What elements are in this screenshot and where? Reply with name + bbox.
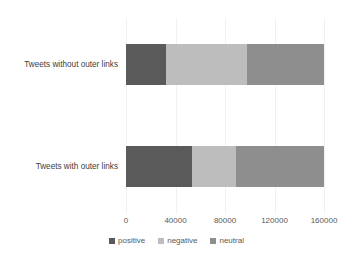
table-row[interactable] bbox=[126, 44, 324, 85]
table-row[interactable] bbox=[126, 146, 324, 187]
x-tick-label-160000: 160000 bbox=[311, 216, 338, 225]
bar-segment-negative[interactable] bbox=[166, 44, 248, 85]
legend-label: negative bbox=[167, 236, 197, 245]
category-label-tweets-with-outer-links: Tweets with outer links bbox=[0, 162, 122, 171]
bar-segment-neutral[interactable] bbox=[247, 44, 324, 85]
legend-label: positive bbox=[118, 236, 145, 245]
legend-swatch-icon bbox=[109, 238, 115, 244]
x-tick-label-120000: 120000 bbox=[261, 216, 288, 225]
gridline-160000 bbox=[324, 18, 325, 214]
category-label-tweets-without-outer-links: Tweets without outer links bbox=[0, 60, 122, 69]
legend-item-neutral[interactable]: neutral bbox=[210, 236, 243, 245]
x-tick-label-0: 0 bbox=[124, 216, 128, 225]
x-axis-tick-labels: 04000080000120000160000 bbox=[126, 216, 324, 230]
legend-item-positive[interactable]: positive bbox=[109, 236, 145, 245]
legend-label: neutral bbox=[219, 236, 243, 245]
bar-segment-neutral[interactable] bbox=[236, 146, 324, 187]
legend: positivenegativeneutral bbox=[0, 236, 353, 245]
bar-segment-positive[interactable] bbox=[126, 146, 192, 187]
legend-swatch-icon bbox=[158, 238, 164, 244]
plot-area bbox=[126, 18, 324, 214]
stacked-bar-chart: Tweets without outer links Tweets with o… bbox=[0, 0, 353, 266]
bar-segment-positive[interactable] bbox=[126, 44, 166, 85]
legend-swatch-icon bbox=[210, 238, 216, 244]
x-tick-label-80000: 80000 bbox=[214, 216, 236, 225]
legend-item-negative[interactable]: negative bbox=[158, 236, 197, 245]
x-tick-label-40000: 40000 bbox=[164, 216, 186, 225]
bar-segment-negative[interactable] bbox=[192, 146, 237, 187]
